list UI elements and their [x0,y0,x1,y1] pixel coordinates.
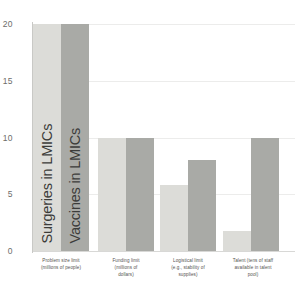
bar-surgeries-funding-limit [98,138,126,252]
bar-group-logistical-limit [160,24,216,251]
bar-vaccines-problem-size-limit: Vaccines in LMICs [61,24,89,251]
x-tick-label-talent: Talent (tens of staff available in talen… [211,257,295,278]
y-tick-20: 20 [0,19,13,29]
bar-group-funding-limit [98,24,154,251]
y-tick-10: 10 [0,133,13,143]
y-tick-15: 15 [0,76,13,86]
bar-surgeries-talent [223,231,251,251]
y-tick-0: 0 [0,246,13,256]
bar-vaccines-logistical-limit [188,160,216,251]
bar-surgeries-logistical-limit [160,185,188,251]
x-tick-line-1: Talent (tens of staff [211,257,295,264]
bar-label-surgeries: Surgeries in LMICs [40,123,55,243]
bar-group-talent [223,24,279,251]
bar-chart: 20 15 10 5 0 Surgeries in LMICs Vaccines… [0,0,308,301]
bar-vaccines-funding-limit [126,138,154,252]
x-tick-line-3: pool) [211,271,295,278]
y-tick-5: 5 [0,189,13,199]
x-tick-line-2: available in talent [211,264,295,271]
plot-area: 20 15 10 5 0 Surgeries in LMICs Vaccines… [33,24,295,251]
bar-surgeries-problem-size-limit: Surgeries in LMICs [33,24,61,251]
bar-group-problem-size-limit: Surgeries in LMICs Vaccines in LMICs [33,24,89,251]
gridline-0-baseline [33,251,295,252]
bar-vaccines-talent [251,138,279,252]
bar-label-vaccines: Vaccines in LMICs [68,127,83,243]
